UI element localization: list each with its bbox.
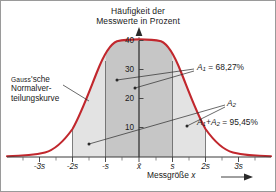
gauss-smallcaps: Gauss xyxy=(11,76,31,83)
y-tick-label-10: 10 xyxy=(112,123,134,132)
a2-subscript: 2 xyxy=(233,101,236,108)
gauss-suffix: 'sche xyxy=(31,75,50,84)
x-axis-label-text: Messgröße xyxy=(147,170,189,180)
a1-value: = 68,27% xyxy=(206,62,244,72)
x-tick-label-plus3s: 3s xyxy=(226,162,252,171)
y-axis-arrow xyxy=(136,27,143,36)
gauss-curve-label: Gauss'sche Normalver- teilungskurve xyxy=(11,75,59,103)
y-tick-label-30: 30 xyxy=(112,65,134,74)
chart-title: Häufigkeit der Messwerte in Prozent xyxy=(1,7,275,27)
x-tick-label-minus1s: -s xyxy=(93,162,119,171)
annotation-a1: A1 = 68,27% xyxy=(197,63,244,73)
chart-title-line2: Messwerte in Prozent xyxy=(1,17,275,27)
y-tick-label-20: 20 xyxy=(112,94,134,103)
leader-line-gauss xyxy=(63,85,89,101)
x-label-arrow-head xyxy=(244,174,253,181)
x-tick-label-minus3s: -3s xyxy=(27,162,53,171)
x-tick-label-mean: x̄ xyxy=(126,162,152,171)
sum-plus: +A xyxy=(206,117,216,127)
x-tick-label-plus1s: s xyxy=(160,162,186,171)
leader-dot-a1-a xyxy=(116,79,119,82)
chart-title-line1: Häufigkeit der xyxy=(111,6,165,16)
gauss-line3: teilungskurve xyxy=(11,94,59,103)
leader-dot-a2-b xyxy=(186,125,189,128)
x-axis-label-variable: x xyxy=(191,170,195,180)
gauss-line2: Normalver- xyxy=(11,84,52,93)
gaussian-distribution-figure: Häufigkeit der Messwerte in Prozent Gaus… xyxy=(0,0,276,192)
annotation-a2: A2 xyxy=(227,99,236,109)
leader-dot-a2-a xyxy=(88,143,91,146)
x-axis-label: Messgröße x xyxy=(147,171,195,181)
annotation-a1-plus-a2: A1+A2 = 95,45% xyxy=(197,118,258,128)
sum-value: = 95,45% xyxy=(220,117,258,127)
leader-dot-a1-b xyxy=(134,87,137,90)
y-tick-label-40: 40 xyxy=(112,36,134,45)
x-tick-label-plus2s: 2s xyxy=(193,162,219,171)
x-tick-label-minus2s: -2s xyxy=(60,162,86,171)
